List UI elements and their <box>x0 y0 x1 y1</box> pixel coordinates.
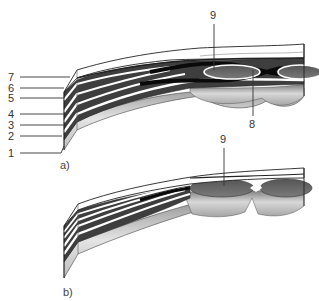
label-9-b: 9 <box>220 133 226 145</box>
label-2: 2 <box>8 130 14 142</box>
lens-9-a <box>204 65 260 79</box>
label-9-a: 9 <box>210 9 216 21</box>
figure-a: 7 6 5 4 3 2 1 9 8 a) <box>8 9 319 171</box>
diagram-canvas: 7 6 5 4 3 2 1 9 8 a) 9 b) <box>0 0 319 301</box>
label-5: 5 <box>8 92 14 104</box>
figure-b: 9 b) <box>63 133 312 298</box>
label-1: 1 <box>8 147 14 159</box>
caption-a: a) <box>60 159 70 171</box>
caption-b: b) <box>63 286 73 298</box>
label-8: 8 <box>249 118 255 130</box>
lens-right-a <box>278 65 319 79</box>
